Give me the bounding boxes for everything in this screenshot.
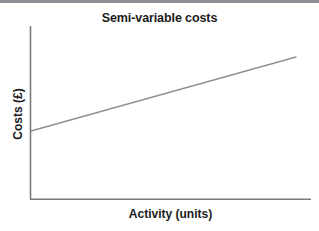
chart-figure: Semi-variable costs Costs (£) Activity (…	[0, 0, 319, 231]
plot-area	[0, 0, 319, 231]
semi-variable-cost-line	[31, 57, 296, 131]
y-axis-label: Costs (£)	[11, 88, 25, 139]
x-axis-label: Activity (units)	[30, 207, 311, 221]
